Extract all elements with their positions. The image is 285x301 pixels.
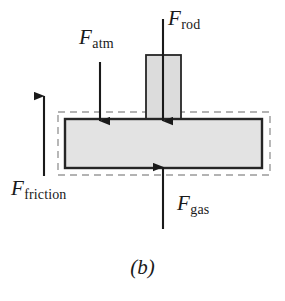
free-body-diagram-figure: Fatm Frod Ffriction Fgas (b): [0, 0, 285, 301]
force-symbol: F: [11, 176, 24, 200]
force-subscript: atm: [92, 36, 113, 51]
force-subscript: rod: [181, 17, 200, 32]
force-subscript: gas: [190, 202, 209, 217]
figure-caption: (b): [0, 255, 285, 280]
force-label-f-rod: Frod: [168, 8, 200, 32]
force-symbol: F: [79, 25, 92, 49]
force-symbol: F: [168, 6, 181, 30]
piston-plate-shape: [65, 119, 262, 168]
force-symbol: F: [177, 191, 190, 215]
force-label-f-atm: Fatm: [79, 27, 114, 51]
force-subscript: friction: [24, 187, 66, 202]
force-label-f-friction: Ffriction: [11, 178, 66, 202]
force-label-f-gas: Fgas: [177, 193, 209, 217]
